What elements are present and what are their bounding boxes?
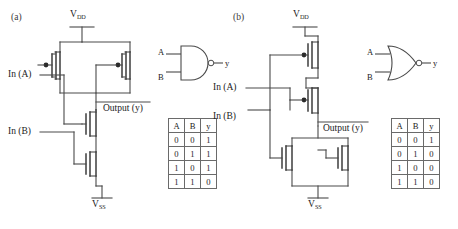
nor-cell-y: 1 <box>424 133 440 147</box>
nor-cell-b: 1 <box>408 147 424 161</box>
nor-th-a: A <box>392 119 408 133</box>
nand-truth-table: A B y 0 0 1 0 1 1 1 0 1 1 1 <box>168 118 217 189</box>
nor-truth-table: A B y 0 0 1 0 1 0 1 0 0 1 1 <box>391 118 440 189</box>
nor-cell-b: 1 <box>408 175 424 189</box>
table-row: 0 0 1 <box>392 133 440 147</box>
nand-cell-b: 1 <box>185 175 201 189</box>
nand-vdd-sub: DD <box>77 13 86 20</box>
nand-vss-main: V <box>92 199 99 209</box>
nor-cell-y: 0 <box>424 161 440 175</box>
nor-vss-sub: SS <box>315 203 322 210</box>
nand-cell-y: 1 <box>201 147 217 161</box>
nor-cell-a: 0 <box>392 133 408 147</box>
nand-cell-b: 0 <box>185 133 201 147</box>
nor-symbol-input-b: B <box>367 72 373 82</box>
nand-symbol-input-a: A <box>158 47 164 57</box>
nand-input-a-label: In (A) <box>8 70 31 80</box>
nor-cell-a: 0 <box>392 147 408 161</box>
nand-cell-a: 0 <box>169 147 185 161</box>
table-row: 0 0 1 <box>169 133 217 147</box>
table-row: 1 1 0 <box>169 175 217 189</box>
table-row: 0 1 1 <box>169 147 217 161</box>
nand-vdd-label: VDD <box>70 10 86 20</box>
nand-cell-a: 0 <box>169 133 185 147</box>
nor-input-a-label: In (A) <box>213 83 236 93</box>
table-header-row: A B y <box>169 119 217 133</box>
nor-th-b: B <box>408 119 424 133</box>
nand-th-a: A <box>169 119 185 133</box>
table-row: 0 1 0 <box>392 147 440 161</box>
nor-vdd-label: VDD <box>293 10 309 20</box>
nor-vdd-sub: DD <box>300 13 309 20</box>
nor-vdd-main: V <box>293 9 300 19</box>
nand-vss-sub: SS <box>99 203 106 210</box>
cmos-gate-figure: (a) <box>0 0 458 229</box>
nor-cell-y: 0 <box>424 175 440 189</box>
nand-cell-b: 1 <box>185 147 201 161</box>
nand-vss-label: VSS <box>92 200 106 210</box>
nand-cell-a: 1 <box>169 175 185 189</box>
nor-gate-symbol <box>375 46 431 80</box>
table-row: 1 0 0 <box>392 161 440 175</box>
nand-vdd-main: V <box>70 9 77 19</box>
nand-cell-b: 0 <box>185 161 201 175</box>
table-row: 1 1 0 <box>392 175 440 189</box>
nand-gate-symbol <box>166 46 223 80</box>
nor-output-label: Output (y) <box>323 124 363 134</box>
nor-input-b-label: In (B) <box>213 112 236 122</box>
nand-symbol-output: y <box>225 58 229 68</box>
nand-output-label: Output (y) <box>103 104 143 114</box>
nor-cell-y: 0 <box>424 147 440 161</box>
nand-cell-y: 1 <box>201 133 217 147</box>
nand-input-b-label: In (B) <box>8 127 31 137</box>
nor-symbol-input-a: A <box>367 47 373 57</box>
nor-cell-b: 0 <box>408 161 424 175</box>
nor-cell-a: 1 <box>392 161 408 175</box>
nand-symbol-input-b: B <box>158 72 164 82</box>
nand-cell-y: 1 <box>201 161 217 175</box>
nor-th-y: y <box>424 119 440 133</box>
table-header-row: A B y <box>392 119 440 133</box>
table-row: 1 0 1 <box>169 161 217 175</box>
nor-symbol-output: y <box>433 58 437 68</box>
nor-cell-a: 1 <box>392 175 408 189</box>
nand-cell-y: 0 <box>201 175 217 189</box>
nand-th-b: B <box>185 119 201 133</box>
nor-vss-label: VSS <box>308 200 322 210</box>
nand-cell-a: 1 <box>169 161 185 175</box>
nor-schematic <box>246 27 368 198</box>
panel-label-b: (b) <box>233 12 244 22</box>
nor-cell-b: 0 <box>408 133 424 147</box>
nor-vss-main: V <box>308 199 315 209</box>
